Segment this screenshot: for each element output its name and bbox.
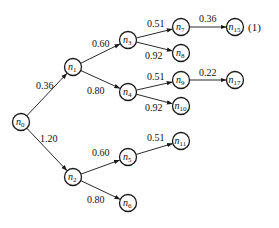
edge-label: 0.51	[147, 18, 165, 29]
node-n3: n3	[120, 32, 137, 49]
edge-label: 1.20	[40, 133, 58, 144]
edge-label: 0.92	[145, 102, 163, 113]
edge-label: 0.51	[147, 71, 165, 82]
edge-label: 0.22	[199, 67, 217, 78]
node-n7: n7	[173, 19, 190, 36]
edge-label: 0.51	[147, 132, 165, 143]
edge-n5-n11	[136, 144, 172, 155]
node-n9: n9	[173, 72, 190, 89]
node-n6: n6	[120, 195, 137, 212]
node-n11: n11	[173, 133, 190, 150]
node-n17: n17	[227, 72, 244, 89]
node-n8: n8	[173, 45, 190, 62]
node-n4: n4	[120, 84, 137, 101]
edge-label: 0.80	[87, 194, 105, 205]
equation-number: (1)	[248, 21, 261, 34]
node-n1: n1	[65, 59, 82, 76]
tree-diagram: 0.361.200.600.800.600.800.510.920.510.92…	[0, 0, 279, 228]
node-n5: n5	[120, 149, 137, 166]
nodes: n0n1n2n3n4n5n6n7n8n9n10n11n15n17	[13, 19, 244, 212]
edge-label: 0.60	[92, 38, 110, 49]
node-n0: n0	[13, 114, 30, 131]
edge-label: 0.92	[145, 50, 163, 61]
edge-label: 0.80	[87, 85, 105, 96]
edge-label: 0.36	[36, 80, 54, 91]
edge-label: 0.60	[92, 147, 110, 158]
node-n15: n15	[227, 19, 244, 36]
node-n2: n2	[65, 169, 82, 186]
edge-n4-n9	[136, 82, 172, 90]
edge-label: 0.36	[199, 13, 217, 24]
node-n10: n10	[173, 98, 190, 115]
edge-n2-n5	[81, 160, 120, 174]
edge-n3-n7	[136, 29, 172, 38]
